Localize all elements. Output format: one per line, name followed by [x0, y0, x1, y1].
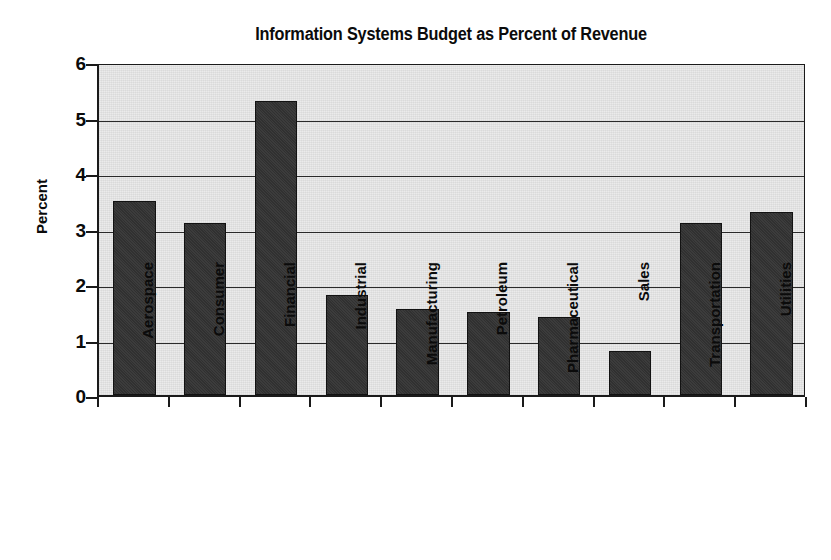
y-axis-tick-mark	[86, 120, 97, 122]
gridline	[99, 121, 804, 122]
y-axis-tick-label: 0	[46, 386, 86, 408]
x-axis-category-label: Aerospace	[139, 262, 156, 412]
y-axis-tick-label: 6	[46, 53, 86, 75]
y-axis-tick-mark	[86, 286, 97, 288]
x-axis-tick-mark	[805, 397, 807, 407]
x-axis-category-label: Transportation	[706, 262, 723, 412]
gridline	[99, 176, 804, 177]
y-axis-tick-label: 3	[46, 220, 86, 242]
y-axis-tick-mark	[86, 342, 97, 344]
y-axis-tick-mark	[86, 64, 97, 66]
y-axis-tick-mark	[86, 175, 97, 177]
y-axis-tick-label: 4	[46, 164, 86, 186]
x-axis-tick-mark	[522, 397, 524, 407]
y-axis-tick-label: 2	[46, 275, 86, 297]
x-axis-tick-mark	[380, 397, 382, 407]
x-axis-tick-mark	[663, 397, 665, 407]
x-axis-category-label: Industrial	[352, 262, 369, 412]
x-axis-tick-mark	[239, 397, 241, 407]
bar-chart: Information Systems Budget as Percent of…	[0, 0, 831, 560]
y-axis-tick-label: 1	[46, 331, 86, 353]
x-axis-category-label: Utilities	[777, 262, 794, 412]
y-axis-tick-label: 5	[46, 109, 86, 131]
chart-title: Information Systems Budget as Percent of…	[122, 24, 780, 45]
x-axis-tick-mark	[309, 397, 311, 407]
x-axis-tick-mark	[168, 397, 170, 407]
x-axis-category-label: Sales	[635, 262, 652, 412]
y-axis-tick-labels: 6543210	[40, 64, 86, 397]
y-axis-tick-mark	[86, 231, 97, 233]
x-axis-category-label: Manufacturing	[423, 262, 440, 412]
x-axis-tick-mark	[734, 397, 736, 407]
x-axis-tick-mark	[97, 397, 99, 407]
x-axis-category-label: Financial	[281, 262, 298, 412]
x-axis-category-label: Pharmaceutical	[564, 262, 581, 412]
plot-area	[97, 64, 805, 397]
x-axis-tick-mark	[451, 397, 453, 407]
y-axis-tick-mark	[86, 397, 97, 399]
x-axis-category-label: Petroleum	[493, 262, 510, 412]
x-axis-tick-mark	[593, 397, 595, 407]
x-axis-category-label: Consumer	[210, 262, 227, 412]
